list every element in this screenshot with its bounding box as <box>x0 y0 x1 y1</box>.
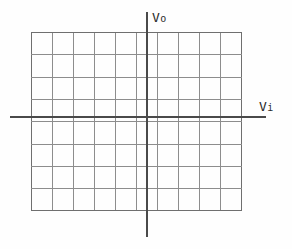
grid-area <box>31 32 242 211</box>
grid-line-horizontal <box>31 77 242 78</box>
grid-line-horizontal <box>31 166 242 167</box>
grid-line-horizontal <box>31 210 242 211</box>
vertical-axis-line <box>146 12 148 237</box>
grid-line-horizontal <box>31 188 242 189</box>
grid-line-horizontal <box>31 99 242 100</box>
grid-line-horizontal <box>31 144 242 145</box>
horizontal-axis-label: Vi <box>259 100 274 114</box>
horizontal-axis-line <box>10 116 266 118</box>
grid-line-horizontal <box>31 32 242 33</box>
grid-line-horizontal <box>31 54 242 55</box>
vertical-axis-label: Vo <box>152 11 167 25</box>
horizontal-axis-label-subscript: i <box>267 102 274 113</box>
vertical-axis-label-subscript: o <box>160 13 167 24</box>
graph-figure: Vo Vi <box>0 0 292 249</box>
grid-line-horizontal <box>31 121 242 122</box>
